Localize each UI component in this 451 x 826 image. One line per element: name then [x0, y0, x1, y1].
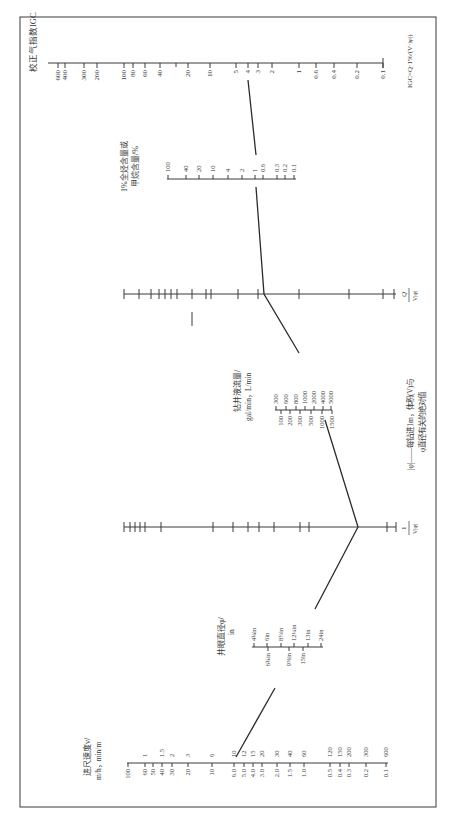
- legend-line2: φ直径有关的绝对值: [417, 391, 427, 452]
- flow-lpm-label: 2000: [310, 391, 317, 404]
- igc-tick-label: 400: [61, 70, 69, 81]
- rop-minm-label: 6: [208, 753, 215, 757]
- rop-mh-label: 50: [149, 769, 156, 776]
- flow-title-line2: gal/min，L/min: [244, 373, 253, 421]
- flow-gpm-label: 300: [296, 416, 303, 426]
- q-axis-den: V|φ|: [412, 291, 418, 301]
- diameter-upper-label: 24in: [317, 629, 324, 641]
- diameter-upper-label: 12¼in: [290, 624, 297, 641]
- hydrocarbon-tick-label: 4: [224, 168, 231, 172]
- rop-mh-label: 10: [208, 769, 215, 776]
- igc-tick-label: 3: [254, 70, 262, 74]
- hydrocarbon-tick-label: 1: [251, 169, 258, 172]
- igc-scale: 6004003002001008060402010543210.60.40.20…: [28, 12, 414, 88]
- diameter-upper-label: 8½in: [277, 627, 284, 641]
- diameter-lower-label: 9⅞in: [285, 652, 292, 666]
- rop-minm-label: 2: [168, 754, 175, 757]
- rop-title-line2: m/h，min/m: [94, 742, 103, 780]
- igc-tick-label: 0.1: [379, 70, 387, 79]
- igc-tick-label: 100: [120, 70, 128, 81]
- diameter-lower-label: 15in: [299, 652, 306, 664]
- diameter-title-line2: in: [227, 629, 236, 635]
- flow-lpm-label: 600: [282, 394, 289, 404]
- hydrocarbon-scale: 1004020104210.60.30.20.1 1%全烃含量或 甲烷含量/%: [119, 141, 297, 192]
- rop-mh-label: 0.1: [382, 769, 389, 777]
- rop-mh-label: 4.0: [249, 769, 256, 777]
- rop-minm-label: 150: [336, 747, 343, 757]
- igc-tick-label: 80: [129, 70, 137, 78]
- igc-title: 校正气指数IGC: [28, 12, 38, 72]
- diameter-title-line1: 井眼直径φ/: [216, 616, 226, 656]
- rop-mh-label: 60: [141, 769, 148, 776]
- rop-minm-label: 60: [300, 751, 307, 758]
- igc-tick-label: 40: [156, 70, 164, 78]
- flow-gpm-label: 500: [307, 416, 314, 426]
- igc-tick-label: 10: [206, 70, 214, 78]
- igc-tick-label: 2: [268, 70, 276, 74]
- rop-minm-label: 40: [286, 751, 293, 758]
- igc-tick-label: 20: [184, 70, 192, 78]
- igc-tick-label: 0.2: [353, 70, 361, 79]
- rop-minm-label: 120: [326, 747, 333, 757]
- rop-mh-label: 1.0: [300, 769, 307, 777]
- hydrocarbon-tick-label: 0.2: [281, 164, 288, 172]
- igc-tick-label: 200: [93, 70, 101, 81]
- igc-tick-label: 5: [232, 70, 240, 74]
- flow-scale: 3006008001000200040005000100200300500100…: [232, 369, 335, 429]
- flow-gpm-label: 100: [277, 416, 284, 426]
- rop-mh-label: 20: [184, 769, 191, 776]
- rop-mh-label: 0.5: [326, 769, 333, 777]
- hydrocarbon-tick-label: 0.3: [273, 164, 280, 172]
- rop-mh-label: 30: [168, 769, 175, 776]
- rop-mh-label: 0.2: [362, 769, 369, 777]
- rop-minm-label: 1.5: [158, 749, 165, 757]
- rop-mh-label: 1.5: [286, 769, 293, 777]
- flow-lpm-label: 1000: [301, 391, 308, 404]
- nomogram-svg: 6004003002001008060402010543210.60.40.20…: [0, 0, 451, 826]
- phi-legend: |φ|——每钻进1m，体积(V)与 φ直径有关的绝对值: [405, 379, 427, 470]
- rop-minm-label: 30: [273, 751, 280, 758]
- rop-minm-label: 1: [141, 754, 148, 757]
- rop-minm-label: 300: [362, 747, 369, 757]
- rop-mh-label: 0.4: [336, 768, 343, 777]
- nomogram-figure: 6004003002001008060402010543210.60.40.20…: [0, 0, 451, 826]
- flow-gpm-label: 1000: [318, 416, 325, 429]
- inv-axis-den: V|φ|: [412, 524, 418, 534]
- flow-lpm-label: 5000: [327, 391, 334, 404]
- hydrocarbon-tick-label: 2: [238, 169, 245, 172]
- diameter-upper-label: 13in: [304, 629, 311, 641]
- q-axis-num: Q: [400, 292, 408, 297]
- rop-mh-label: 5.0: [240, 769, 247, 777]
- rop-mh-label: 3.0: [258, 769, 265, 777]
- rop-mh-label: 100: [124, 769, 131, 779]
- igc-tick-label: 1: [295, 70, 303, 74]
- rop-mh-label: 40: [158, 769, 165, 776]
- rop-minm-label: 3: [184, 754, 191, 757]
- rop-mh-label: 6.0: [230, 769, 237, 777]
- hydrocarbon-tick-label: 100: [164, 162, 171, 172]
- rop-minm-label: 15: [249, 751, 256, 758]
- flow-gpm-label: 1500: [328, 416, 335, 429]
- rop-minm-label: 200: [345, 747, 352, 757]
- flow-lpm-label: 4000: [319, 391, 326, 404]
- igc-tick-label: 4: [244, 70, 252, 74]
- rop-minm-label: 600: [382, 747, 389, 757]
- hydrocarbon-title-line2: 甲烷含量/%: [130, 146, 140, 187]
- rop-title-line1: 进尺速度v/: [82, 737, 92, 776]
- igc-tick-label: 60: [141, 70, 149, 78]
- flow-gpm-label: 200: [286, 416, 293, 426]
- hydrocarbon-tick-label: 0.6: [259, 163, 266, 172]
- hydrocarbon-title-line1: 1%全烃含量或: [119, 141, 129, 192]
- igc-tick-label: 0.4: [330, 70, 338, 79]
- diameter-upper-label: 6in: [263, 632, 270, 641]
- diameter-lower-label: 6¾in: [264, 652, 271, 666]
- igc-formula: IGC=Q·1%/(V·|φ|): [406, 34, 414, 88]
- hydrocarbon-tick-label: 10: [209, 166, 216, 173]
- igc-tick-label: 300: [80, 70, 88, 81]
- inverse-axis: 1 V|φ|: [124, 521, 418, 535]
- rop-mh-label: 2.0: [273, 769, 280, 777]
- rop-minm-label: 20: [258, 751, 265, 758]
- hydrocarbon-tick-label: 20: [195, 166, 202, 173]
- legend-line1: |φ|——每钻进1m，体积(V)与: [405, 379, 415, 470]
- hydrocarbon-tick-label: 0.1: [290, 164, 297, 172]
